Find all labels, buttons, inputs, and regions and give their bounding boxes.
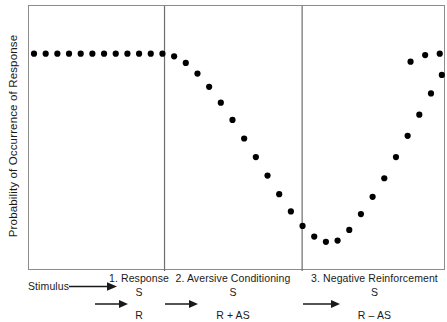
data-point bbox=[229, 117, 235, 123]
data-point bbox=[299, 223, 305, 229]
data-point bbox=[428, 90, 434, 96]
data-point bbox=[311, 233, 317, 239]
data-point bbox=[54, 51, 60, 57]
data-point bbox=[159, 51, 165, 57]
panel-captions: 1. Response S R 2. Aversive Conditioning… bbox=[0, 272, 447, 304]
panel-2-title: 2. Aversive Conditioning bbox=[164, 272, 302, 285]
panel-caption-3: 3. Negative Reinforcement S R – AS bbox=[302, 272, 447, 322]
panel-3-formula: S R – AS bbox=[302, 286, 447, 322]
panel-3-formula-left: S bbox=[371, 286, 378, 298]
data-point bbox=[206, 84, 212, 90]
data-point bbox=[416, 112, 422, 118]
data-point bbox=[370, 194, 376, 200]
data-point bbox=[264, 173, 270, 179]
data-point bbox=[381, 175, 387, 181]
data-point bbox=[124, 51, 130, 57]
data-point bbox=[78, 51, 84, 57]
data-point bbox=[346, 227, 352, 233]
right-arrow-icon bbox=[302, 299, 340, 309]
data-point-group bbox=[31, 51, 445, 245]
data-point bbox=[43, 51, 49, 57]
data-point bbox=[276, 191, 282, 197]
right-arrow-icon bbox=[164, 299, 198, 309]
data-point bbox=[288, 208, 294, 214]
data-point bbox=[358, 211, 364, 217]
data-point bbox=[89, 51, 95, 57]
data-point bbox=[31, 51, 37, 57]
panel-2-formula-right: R + AS bbox=[216, 309, 250, 321]
data-point bbox=[183, 60, 189, 66]
data-point bbox=[101, 51, 107, 57]
phase-divider-group bbox=[165, 6, 303, 271]
y-axis-label-container: Probability of Occurrence of Response bbox=[0, 0, 26, 272]
panel-1-formula-left: S bbox=[135, 286, 142, 298]
data-point bbox=[422, 52, 428, 58]
data-point bbox=[437, 51, 443, 57]
data-point bbox=[393, 154, 399, 160]
data-point bbox=[66, 51, 72, 57]
data-point bbox=[194, 70, 200, 76]
data-point bbox=[136, 51, 142, 57]
plot-area bbox=[28, 5, 445, 270]
right-arrow-icon bbox=[94, 299, 128, 309]
data-point bbox=[113, 51, 119, 57]
panel-caption-2: 2. Aversive Conditioning S R + AS bbox=[164, 272, 302, 322]
data-point bbox=[253, 154, 259, 160]
data-point bbox=[439, 72, 445, 78]
panel-2-formula: S R + AS bbox=[164, 286, 302, 322]
data-point bbox=[323, 239, 329, 245]
panel-3-formula-right: R – AS bbox=[358, 309, 391, 321]
data-point bbox=[334, 237, 340, 243]
data-point bbox=[218, 100, 224, 106]
data-point bbox=[241, 135, 247, 141]
panel-2-formula-left: S bbox=[229, 286, 236, 298]
data-point bbox=[171, 53, 177, 59]
data-point bbox=[407, 59, 413, 65]
y-axis-label: Probability of Occurrence of Response bbox=[7, 35, 19, 237]
panel-3-title: 3. Negative Reinforcement bbox=[302, 272, 447, 285]
panel-1-formula-right: R bbox=[135, 309, 143, 321]
plot-svg bbox=[29, 6, 446, 271]
data-point bbox=[405, 133, 411, 139]
data-point bbox=[148, 51, 154, 57]
